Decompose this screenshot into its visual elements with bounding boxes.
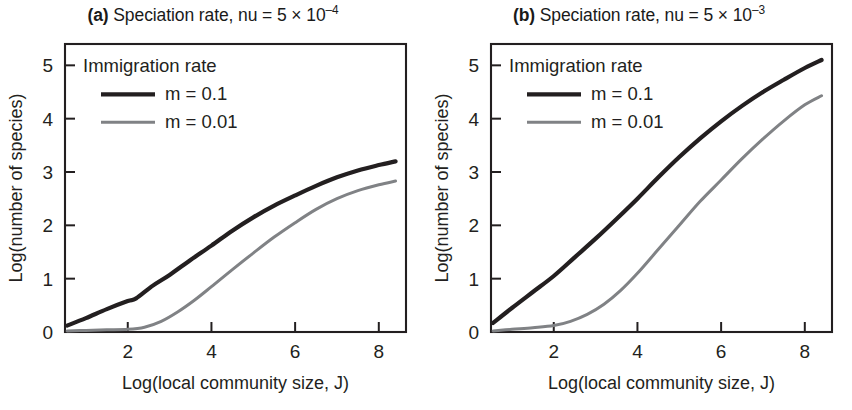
- legend-label-0: m = 0.1: [591, 83, 653, 104]
- y-tick-label: 4: [42, 109, 53, 130]
- chart-panel-a: (a) Speciation rate, nu = 5 × 10–4 01234…: [0, 0, 426, 410]
- y-tick-label: 3: [42, 162, 53, 183]
- chart-panel-b: (b) Speciation rate, nu = 5 × 10–3 01234…: [426, 0, 852, 410]
- x-tick-label: 6: [290, 341, 301, 362]
- y-tick-label: 2: [42, 215, 53, 236]
- x-tick-label: 8: [800, 341, 811, 362]
- y-axis-title: Log(number of species): [6, 93, 26, 282]
- legend-title: Immigration rate: [509, 55, 643, 76]
- legend-title: Immigration rate: [83, 55, 217, 76]
- figure-container: (a) Speciation rate, nu = 5 × 10–4 01234…: [0, 0, 852, 410]
- panel-b-plot: 0123452468Log(local community size, J)Lo…: [426, 0, 852, 410]
- x-tick-label: 6: [716, 341, 727, 362]
- series-line-m-0-1: [493, 60, 821, 323]
- x-tick-label: 2: [548, 341, 559, 362]
- x-axis-title: Log(local community size, J): [122, 373, 349, 393]
- y-tick-label: 0: [42, 322, 53, 343]
- x-tick-label: 4: [632, 341, 643, 362]
- y-tick-label: 5: [42, 55, 53, 76]
- x-tick-label: 8: [374, 341, 385, 362]
- y-tick-label: 0: [468, 322, 479, 343]
- legend-label-0: m = 0.1: [165, 83, 227, 104]
- y-tick-label: 1: [468, 269, 479, 290]
- y-tick-label: 4: [468, 109, 479, 130]
- series-line-m-0-1: [67, 161, 395, 325]
- y-tick-label: 1: [42, 269, 53, 290]
- y-axis-title: Log(number of species): [432, 93, 452, 282]
- y-tick-label: 5: [468, 55, 479, 76]
- plot-frame: [65, 44, 406, 332]
- y-tick-label: 3: [468, 162, 479, 183]
- legend-label-1: m = 0.01: [591, 111, 664, 132]
- legend-label-1: m = 0.01: [165, 111, 238, 132]
- series-line-m-0-01: [67, 181, 395, 331]
- x-tick-label: 2: [122, 341, 133, 362]
- panel-a-plot: 0123452468Log(local community size, J)Lo…: [0, 0, 426, 410]
- x-axis-title: Log(local community size, J): [548, 373, 775, 393]
- y-tick-label: 2: [468, 215, 479, 236]
- plot-frame: [491, 44, 832, 332]
- x-tick-label: 4: [206, 341, 217, 362]
